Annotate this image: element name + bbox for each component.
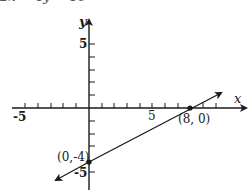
coordinate-graph: x y -5 5 5 -5 (8, 0) (0,-4) — [0, 0, 252, 193]
x-ticks — [25, 103, 216, 108]
y-tick-label-neg5: -5 — [74, 166, 87, 180]
x-axis-label: x — [234, 91, 242, 106]
y-intercept-label: (0,-4) — [57, 150, 90, 164]
y-axis-label: y — [78, 14, 88, 29]
y-tick-label-5: 5 — [79, 37, 87, 51]
x-intercept-label: (8, 0) — [178, 112, 210, 126]
x-tick-label-5: 5 — [148, 109, 156, 123]
graph-line-upper — [89, 93, 221, 162]
x-intercept-point — [187, 105, 192, 110]
x-tick-label-neg5: -5 — [13, 110, 26, 124]
